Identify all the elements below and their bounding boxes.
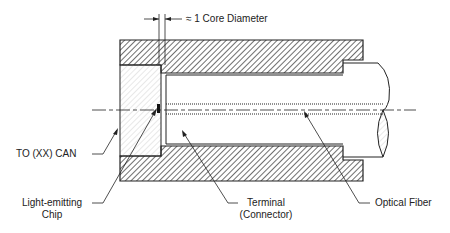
fiber-label: Optical Fiber (375, 197, 432, 209)
terminal-bore (166, 75, 343, 144)
terminal-label: Terminal (Connector) (234, 197, 298, 221)
fiber-end (378, 110, 389, 157)
can-label: TO (XX) CAN (16, 148, 76, 160)
leader-can (92, 130, 117, 154)
optical-fiber (343, 63, 390, 110)
chip-label: Light-emitting Chip (14, 197, 90, 221)
light-emitting-chip (157, 104, 160, 113)
core-diameter-label: ≈ 1 Core Diameter (186, 13, 268, 25)
